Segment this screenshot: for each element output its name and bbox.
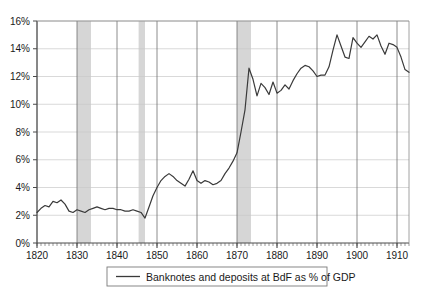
- x-tick-label: 1850: [146, 250, 169, 261]
- y-axis-tick-labels: 0%2%4%6%8%10%12%14%16%: [10, 16, 30, 249]
- y-tick-label: 2%: [16, 210, 31, 221]
- y-tick-label: 10%: [10, 99, 30, 110]
- y-tick-label: 0%: [16, 238, 31, 249]
- x-tick-label: 1890: [306, 250, 329, 261]
- y-tick-label: 4%: [16, 182, 31, 193]
- x-tick-label: 1860: [186, 250, 209, 261]
- y-tick-label: 8%: [16, 127, 31, 138]
- banknotes-deposits-line-chart: 0%2%4%6%8%10%12%14%16% 18201830184018501…: [0, 0, 421, 298]
- x-tick-label: 1870: [226, 250, 249, 261]
- x-tick-label: 1830: [66, 250, 89, 261]
- y-axis-ticks: [33, 21, 37, 243]
- y-tick-label: 16%: [10, 16, 30, 27]
- figure-container: 0%2%4%6%8%10%12%14%16% 18201830184018501…: [0, 0, 421, 298]
- x-tick-label: 1880: [266, 250, 289, 261]
- x-tick-label: 1840: [106, 250, 129, 261]
- chart-legend: Banknotes and deposits at BdF as % of GD…: [107, 267, 356, 286]
- x-axis-tick-labels: 1820183018401850186018701880189019001910: [26, 250, 409, 261]
- y-tick-label: 6%: [16, 154, 31, 165]
- y-tick-label: 14%: [10, 43, 30, 54]
- legend-label-banknotes: Banknotes and deposits at BdF as % of GD…: [146, 271, 356, 283]
- x-tick-label: 1910: [386, 250, 409, 261]
- x-tick-label: 1820: [26, 250, 49, 261]
- x-tick-label: 1900: [346, 250, 369, 261]
- y-tick-label: 12%: [10, 71, 30, 82]
